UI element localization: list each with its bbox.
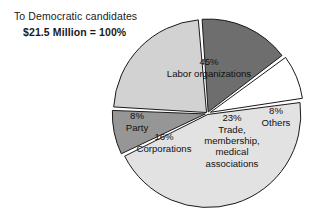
pie-label-line: 23% xyxy=(222,112,242,123)
pie-label-line: membership, xyxy=(204,135,259,146)
pie-label-line: Party xyxy=(126,121,149,132)
pie-label-line: 8% xyxy=(130,110,144,121)
pie-slice-trade-membership-medical-associations[interactable] xyxy=(114,20,207,113)
pie-label-line: 8% xyxy=(269,105,283,116)
chart-canvas: To Democratic candidates $21.5 Million =… xyxy=(0,0,315,217)
pie-chart: 45%Labor organizations8%Others23%Trade,m… xyxy=(0,0,315,217)
pie-label-line: Labor organizations xyxy=(167,67,251,78)
pie-label-line: 45% xyxy=(199,56,219,67)
pie-label-line: 16% xyxy=(154,131,174,142)
pie-label-line: Trade, xyxy=(218,123,245,134)
pie-label-line: Others xyxy=(262,116,291,127)
pie-label-line: Corporations xyxy=(137,142,192,153)
pie-label-line: associations xyxy=(206,157,259,168)
pie-label-line: medical xyxy=(215,146,248,157)
